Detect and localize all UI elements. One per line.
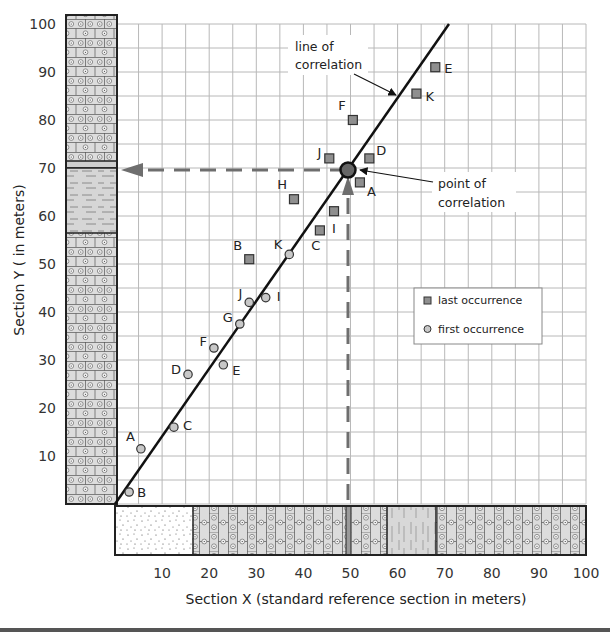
point-label: K xyxy=(425,89,434,104)
first-occurrence-circle-icon xyxy=(210,344,218,352)
y-tick-label: 100 xyxy=(29,16,56,32)
first-occurrence-circle-icon xyxy=(170,423,178,431)
svg-text:line of: line of xyxy=(295,39,334,54)
legend-square-icon xyxy=(424,297,431,304)
last-occurrence-square-icon xyxy=(365,154,374,163)
point-label: F xyxy=(199,334,206,349)
x-tick-label: 70 xyxy=(436,565,454,581)
point-of-correlation xyxy=(341,163,356,178)
svg-text:first occurrence: first occurrence xyxy=(438,323,524,336)
last-occurrence-square-icon xyxy=(412,89,421,98)
svg-text:correlation: correlation xyxy=(438,195,505,210)
point-label: E xyxy=(232,363,240,378)
point-label: G xyxy=(223,310,233,325)
point-label: J xyxy=(316,145,321,160)
y-tick-label: 70 xyxy=(38,160,56,176)
point-label: D xyxy=(376,143,386,158)
point-label: A xyxy=(367,184,376,199)
point-label: F xyxy=(338,98,345,113)
y-axis-label: Section Y ( in meters) xyxy=(11,184,27,335)
point-label: C xyxy=(311,238,320,253)
x-tick-label: 30 xyxy=(247,565,265,581)
last-occurrence-square-icon xyxy=(348,116,357,125)
point-label: J xyxy=(237,286,242,301)
last-occurrence-square-icon xyxy=(325,154,334,163)
y-tick-label: 40 xyxy=(38,304,56,320)
y-tick-label: 90 xyxy=(38,64,56,80)
x-axis-label: Section X (standard reference section in… xyxy=(186,591,527,607)
y-tick-label: 10 xyxy=(38,448,56,464)
point-label: D xyxy=(171,362,181,377)
point-label: E xyxy=(444,61,452,76)
first-occurrence-circle-icon xyxy=(285,250,293,258)
point-label: B xyxy=(137,485,146,500)
annotation-point-of-correlation: point of correlation xyxy=(360,170,516,212)
projection-dashes xyxy=(121,163,354,500)
first-occurrence-circle-icon xyxy=(125,488,133,496)
x-tick-label: 60 xyxy=(389,565,407,581)
y-tick-label: 20 xyxy=(38,400,56,416)
last-occurrence-square-icon xyxy=(431,63,440,72)
bottom-rule xyxy=(0,628,610,632)
last-occurrence-square-icon xyxy=(245,255,254,264)
x-tick-label: 10 xyxy=(153,565,171,581)
svg-text:last occurrence: last occurrence xyxy=(438,294,523,307)
legend: last occurrence first occurrence xyxy=(414,288,542,344)
x-tick-label: 90 xyxy=(530,565,548,581)
point-label: K xyxy=(274,237,283,252)
first-occurrence-circle-icon xyxy=(137,445,145,453)
y-tick-label: 50 xyxy=(38,256,56,272)
x-tick-label: 40 xyxy=(294,565,312,581)
arrow-left-icon xyxy=(121,163,143,177)
y-tick-label: 30 xyxy=(38,352,56,368)
legend-circle-icon xyxy=(424,326,431,333)
x-tick-label: 100 xyxy=(573,565,600,581)
annotation-line-of-correlation: line of correlation xyxy=(288,35,396,95)
arrow-up-icon xyxy=(342,176,354,195)
first-occurrence-circle-icon xyxy=(262,293,270,301)
svg-text:correlation: correlation xyxy=(295,57,362,72)
section-x-column xyxy=(115,506,586,555)
last-occurrence-square-icon xyxy=(289,195,298,204)
first-occurrence-circle-icon xyxy=(236,320,244,328)
correlation-chart: ABCDEFHIJKABCDEFGIJK line of correlation… xyxy=(0,0,610,638)
x-tick-label: 80 xyxy=(483,565,501,581)
svg-text:point of: point of xyxy=(438,176,486,191)
point-label: I xyxy=(332,221,336,236)
first-occurrence-circle-icon xyxy=(245,298,253,306)
point-label: C xyxy=(183,418,192,433)
x-tick-label: 20 xyxy=(200,565,218,581)
data-points: ABCDEFHIJKABCDEFGIJK xyxy=(125,61,453,500)
point-label: H xyxy=(277,177,287,192)
y-axis-ticks: 102030405060708090100 xyxy=(29,16,56,464)
point-label: A xyxy=(126,429,135,444)
point-label: I xyxy=(277,289,281,304)
x-axis-ticks: 102030405060708090100 xyxy=(153,565,599,581)
y-tick-label: 80 xyxy=(38,112,56,128)
first-occurrence-circle-icon xyxy=(184,370,192,378)
x-tick-label: 50 xyxy=(342,565,360,581)
first-occurrence-circle-icon xyxy=(219,361,227,369)
section-y-column xyxy=(66,15,117,504)
last-occurrence-square-icon xyxy=(315,226,324,235)
last-occurrence-square-icon xyxy=(330,207,339,216)
last-occurrence-square-icon xyxy=(355,178,364,187)
y-tick-label: 60 xyxy=(38,208,56,224)
point-label: B xyxy=(233,238,242,253)
